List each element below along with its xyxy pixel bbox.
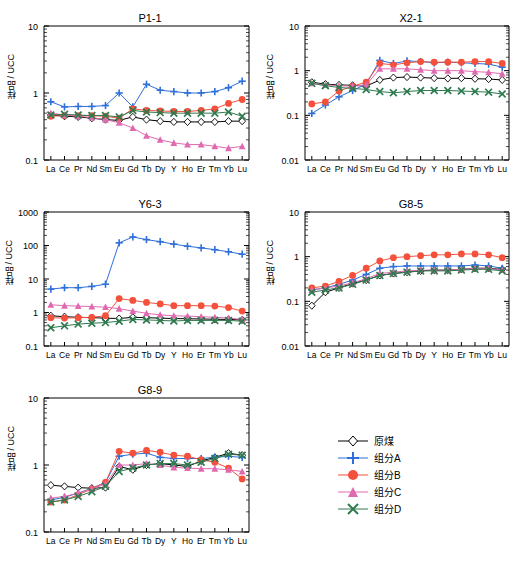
- svg-text:Y: Y: [171, 350, 177, 360]
- svg-text:Lu: Lu: [237, 536, 247, 546]
- svg-text:Er: Er: [197, 536, 206, 546]
- svg-text:La: La: [307, 350, 317, 360]
- svg-text:10: 10: [28, 275, 38, 285]
- svg-text:1000: 1000: [18, 208, 38, 218]
- svg-text:1: 1: [294, 66, 299, 76]
- y-axis-label-g8-9: 样品 / UCC: [4, 426, 17, 471]
- svg-text:La: La: [46, 536, 56, 546]
- svg-text:10: 10: [289, 208, 299, 218]
- panel-g8-9: G8-9 样品 / UCC 0.1110LaCePrNdSmEuGdTbDyYH…: [0, 378, 261, 562]
- svg-text:10: 10: [289, 22, 299, 32]
- svg-text:Tm: Tm: [209, 536, 221, 546]
- svg-text:Er: Er: [457, 164, 466, 174]
- svg-text:Y: Y: [171, 164, 177, 174]
- legend-item-1: 组分A: [338, 449, 478, 466]
- y-axis-label-y6-3: 样品 / UCC: [2, 240, 15, 285]
- svg-text:Sm: Sm: [360, 350, 373, 360]
- y-axis-label-g8-5: 样品 / UCC: [263, 240, 276, 285]
- svg-text:Nd: Nd: [86, 536, 97, 546]
- svg-text:0.01: 0.01: [281, 342, 299, 352]
- chart-canvas-y6-3: 0.11101001000LaCePrNdSmEuGdTbDyYHoErTmYb…: [0, 192, 261, 378]
- svg-text:100: 100: [23, 241, 38, 251]
- svg-text:10: 10: [28, 394, 38, 404]
- legend-label-4: 组分D: [374, 501, 401, 516]
- svg-text:0.1: 0.1: [25, 156, 38, 166]
- svg-text:0.1: 0.1: [25, 528, 38, 538]
- chart-canvas-g8-9: 0.1110LaCePrNdSmEuGdTbDyYHoErTmYbLu: [0, 378, 261, 562]
- svg-text:Gd: Gd: [127, 350, 139, 360]
- svg-text:Yb: Yb: [223, 164, 234, 174]
- svg-text:Pr: Pr: [74, 536, 83, 546]
- chart-canvas-g8-5: 0.010.1110LaCePrNdSmEuGdTbDyYHoErTmYbLu: [261, 192, 521, 378]
- svg-text:Gd: Gd: [388, 164, 400, 174]
- legend-label-0: 原煤: [374, 433, 394, 448]
- panel-x2-1: X2-1 样品 / UCC 0.010.1110LaCePrNdSmEuGdTb…: [261, 6, 521, 192]
- svg-text:Ce: Ce: [320, 350, 331, 360]
- plot-title-g8-9: G8-9: [60, 384, 240, 396]
- triangle-icon: [338, 485, 368, 499]
- svg-text:Gd: Gd: [127, 164, 139, 174]
- chart-canvas-x2-1: 0.010.1110LaCePrNdSmEuGdTbDyYHoErTmYbLu: [261, 6, 521, 192]
- svg-text:Ce: Ce: [59, 350, 70, 360]
- svg-text:Er: Er: [197, 350, 206, 360]
- svg-text:Dy: Dy: [415, 164, 426, 174]
- svg-text:Lu: Lu: [237, 350, 247, 360]
- svg-text:Nd: Nd: [347, 350, 358, 360]
- svg-text:Sm: Sm: [99, 536, 112, 546]
- svg-text:La: La: [307, 164, 317, 174]
- diamond-icon: [338, 434, 368, 448]
- svg-text:Lu: Lu: [237, 164, 247, 174]
- svg-text:1: 1: [33, 461, 38, 471]
- svg-text:Er: Er: [197, 164, 206, 174]
- svg-text:Ho: Ho: [182, 536, 193, 546]
- legend-label-3: 组分C: [374, 484, 401, 499]
- svg-text:Dy: Dy: [155, 164, 166, 174]
- svg-text:Ho: Ho: [442, 350, 453, 360]
- legend-item-2: 组分B: [338, 466, 478, 483]
- svg-text:Tm: Tm: [469, 164, 481, 174]
- svg-text:Tb: Tb: [142, 350, 152, 360]
- svg-text:La: La: [46, 350, 56, 360]
- plot-title-p1-1: P1-1: [60, 12, 240, 24]
- svg-text:0.1: 0.1: [25, 342, 38, 352]
- svg-text:Tm: Tm: [469, 350, 481, 360]
- svg-text:Yb: Yb: [223, 350, 234, 360]
- svg-text:Ho: Ho: [182, 350, 193, 360]
- svg-text:Nd: Nd: [86, 350, 97, 360]
- svg-text:Ce: Ce: [59, 164, 70, 174]
- svg-text:Eu: Eu: [375, 164, 386, 174]
- svg-text:1: 1: [33, 308, 38, 318]
- svg-text:10: 10: [28, 22, 38, 32]
- svg-text:Eu: Eu: [114, 164, 125, 174]
- panel-p1-1: P1-1 样品 / UCC 0.1110LaCePrNdSmEuGdTbDyYH…: [0, 6, 261, 192]
- plot-title-g8-5: G8-5: [321, 198, 501, 210]
- svg-text:Pr: Pr: [335, 350, 344, 360]
- svg-text:Tb: Tb: [142, 536, 152, 546]
- svg-text:1: 1: [294, 252, 299, 262]
- svg-text:Pr: Pr: [335, 164, 344, 174]
- svg-text:0.1: 0.1: [286, 297, 299, 307]
- svg-text:Y: Y: [431, 350, 437, 360]
- svg-text:Gd: Gd: [388, 350, 400, 360]
- svg-text:Ce: Ce: [320, 164, 331, 174]
- svg-text:Yb: Yb: [223, 536, 234, 546]
- svg-text:Y: Y: [431, 164, 437, 174]
- svg-text:Tm: Tm: [209, 164, 221, 174]
- svg-text:Y: Y: [171, 536, 177, 546]
- svg-text:Ho: Ho: [442, 164, 453, 174]
- plot-title-y6-3: Y6-3: [60, 198, 240, 210]
- svg-text:Yb: Yb: [483, 350, 494, 360]
- legend-item-3: 组分C: [338, 483, 478, 500]
- svg-text:0.01: 0.01: [281, 156, 299, 166]
- svg-text:0.1: 0.1: [286, 111, 299, 121]
- svg-text:Ho: Ho: [182, 164, 193, 174]
- chart-canvas-p1-1: 0.1110LaCePrNdSmEuGdTbDyYHoErTmYbLu: [0, 6, 261, 192]
- svg-text:Tb: Tb: [402, 164, 412, 174]
- svg-text:Sm: Sm: [99, 350, 112, 360]
- plot-title-x2-1: X2-1: [321, 12, 501, 24]
- svg-text:Sm: Sm: [99, 164, 112, 174]
- legend-item-0: 原煤: [338, 432, 478, 449]
- svg-text:Sm: Sm: [360, 164, 373, 174]
- svg-text:Yb: Yb: [483, 164, 494, 174]
- plus-icon: [338, 451, 368, 465]
